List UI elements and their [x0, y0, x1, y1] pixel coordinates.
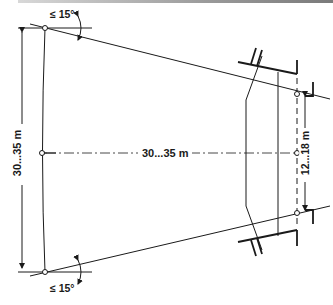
headlight-point-bottom-right [295, 211, 300, 216]
center-point-left [40, 151, 45, 156]
headlight-point-top-right [295, 92, 300, 97]
angle-label-top: ≤ 15° [50, 8, 75, 20]
beam-line-bottom [30, 206, 330, 276]
longitudinal-distance-label: 30...35 m [138, 147, 192, 159]
lateral-distance-label: 30...35 m [11, 130, 23, 176]
bumper-top [238, 62, 297, 74]
beam-line-top [30, 24, 330, 99]
headlight-point-bottom-left [43, 270, 48, 275]
headlight-spacing-label: 12...18 m [299, 131, 311, 175]
bumper-bottom [238, 230, 297, 242]
angle-label-bottom: ≤ 15° [50, 282, 75, 294]
beam-arc-line [43, 28, 46, 272]
headlight-point-top-left [43, 26, 48, 31]
